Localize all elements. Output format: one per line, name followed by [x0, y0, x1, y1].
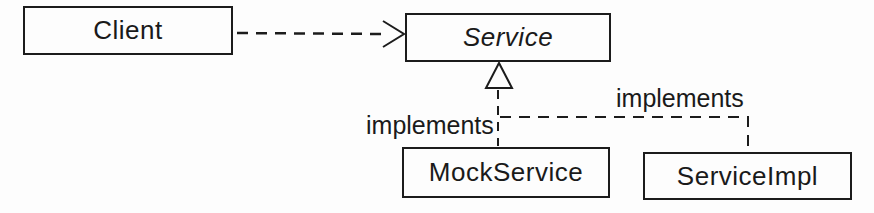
realization-triangle-icon [486, 63, 512, 88]
edge-label-implements-serviceimpl: implements [616, 84, 744, 113]
class-node-client-label: Client [93, 15, 162, 46]
class-node-mockservice-label: MockService [429, 157, 583, 188]
class-node-service: Service [405, 13, 611, 62]
realization-edge-serviceimpl [500, 117, 748, 151]
class-node-service-label: Service [463, 22, 553, 53]
edge-label-implements-mockservice: implements [366, 111, 494, 140]
class-node-serviceimpl: ServiceImpl [643, 152, 852, 200]
class-node-client: Client [23, 6, 233, 55]
dependency-arrowhead-icon [383, 21, 404, 47]
class-node-serviceimpl-label: ServiceImpl [677, 161, 818, 192]
class-node-mockservice: MockService [402, 147, 610, 198]
uml-class-diagram: Client Service MockService ServiceImpl i… [0, 0, 874, 213]
dependency-edge-client-service [237, 33, 388, 34]
